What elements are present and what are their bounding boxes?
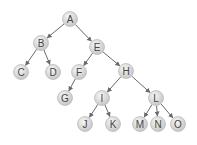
tree-node-c: C <box>14 65 29 80</box>
tree-node-a: A <box>63 12 78 27</box>
edge-a-e-arrow-icon <box>75 24 91 41</box>
edge-l-n-arrow-icon <box>157 105 158 116</box>
edge-f-g-arrow-icon <box>69 79 76 91</box>
edge-h-i-arrow-icon <box>107 77 121 92</box>
node-label: N <box>154 119 161 130</box>
tree-node-g: G <box>58 91 73 106</box>
edge-b-c-arrow-icon <box>26 49 37 65</box>
edge-a-b-arrow-icon <box>47 24 64 38</box>
tree-node-m: M <box>133 117 148 132</box>
tree-node-k: K <box>106 117 121 132</box>
node-label: M <box>136 119 144 130</box>
node-label: L <box>153 93 159 104</box>
tree-node-o: O <box>171 117 186 132</box>
node-label: I <box>101 93 104 104</box>
node-label: B <box>38 38 45 49</box>
tree-node-f: F <box>72 65 87 80</box>
tree-node-l: L <box>149 91 164 106</box>
node-label: J <box>83 119 88 130</box>
nodes-group: ABECDFHGILJKMNO <box>14 12 186 132</box>
tree-diagram: ABECDFHGILJKMNO <box>0 0 197 145</box>
edge-i-j-arrow-icon <box>89 104 98 117</box>
edge-i-k-arrow-icon <box>105 105 110 117</box>
tree-node-d: D <box>46 65 61 80</box>
edge-l-o-arrow-icon <box>161 104 173 118</box>
node-label: A <box>67 14 74 25</box>
tree-node-e: E <box>90 40 105 55</box>
edge-b-d-arrow-icon <box>44 50 50 65</box>
edge-h-l-arrow-icon <box>132 76 150 93</box>
node-label: C <box>17 67 24 78</box>
edge-e-f-arrow-icon <box>84 53 93 65</box>
tree-node-j: J <box>78 117 93 132</box>
tree-node-b: B <box>34 36 49 51</box>
node-label: O <box>174 119 182 130</box>
tree-node-n: N <box>151 117 166 132</box>
tree-node-h: H <box>119 64 134 79</box>
tree-node-i: I <box>95 91 110 106</box>
node-label: H <box>122 66 129 77</box>
edge-l-m-arrow-icon <box>144 104 152 117</box>
node-label: F <box>76 67 82 78</box>
edge-e-h-arrow-icon <box>103 52 120 66</box>
node-label: K <box>110 119 117 130</box>
node-label: D <box>49 67 56 78</box>
node-label: E <box>94 42 101 53</box>
node-label: G <box>61 93 69 104</box>
